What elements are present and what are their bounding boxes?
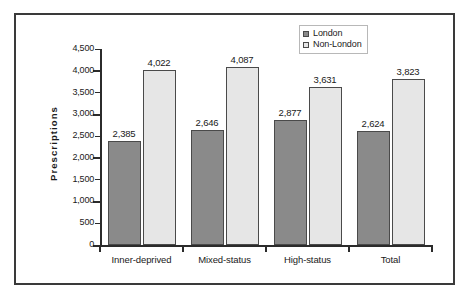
bar-value-label: 4,087 <box>231 54 254 65</box>
bar-group: 2,6243,823 <box>357 48 425 245</box>
y-axis-tick-label: 4,000 <box>52 66 94 75</box>
y-axis-tick-label: 2,500 <box>52 131 94 140</box>
y-axis-tick-label: 3,000 <box>52 109 94 118</box>
bar-london[interactable]: 2,646 <box>191 130 224 245</box>
y-axis-tick <box>93 70 102 72</box>
bar-value-label: 2,646 <box>196 117 219 128</box>
bar-london[interactable]: 2,624 <box>357 131 390 245</box>
y-axis-tick <box>95 179 102 180</box>
x-axis-tick <box>348 245 350 252</box>
legend-item[interactable]: Non-London <box>303 39 362 50</box>
bar-group: 2,3854,022 <box>108 48 176 245</box>
y-axis-tick <box>95 136 102 137</box>
y-axis-tick-label: 3,500 <box>52 88 94 97</box>
y-axis-tick-label: 1,000 <box>52 196 94 205</box>
chart-legend: LondonNon-London <box>299 25 368 54</box>
legend-item[interactable]: London <box>303 28 362 39</box>
bar-non-london[interactable]: 4,087 <box>226 67 259 245</box>
x-axis-tick <box>182 245 184 252</box>
legend-label: Non-London <box>313 40 362 49</box>
x-axis-tick <box>431 245 433 252</box>
y-axis-tick <box>93 201 102 203</box>
y-axis-tick <box>93 114 102 116</box>
bar-value-label: 4,022 <box>148 57 171 68</box>
x-axis-tick <box>265 245 267 252</box>
bar-london[interactable]: 2,877 <box>274 120 307 245</box>
bar-value-label: 2,877 <box>279 107 302 118</box>
legend-swatch-icon <box>303 31 309 37</box>
x-axis-category-label: Total <box>349 254 432 265</box>
y-axis-tick-label: 0 <box>52 240 94 249</box>
y-axis-tick <box>95 92 102 93</box>
bar-value-label: 3,631 <box>314 74 337 85</box>
bar-non-london[interactable]: 3,823 <box>392 79 425 246</box>
bar-value-label: 2,385 <box>113 128 136 139</box>
y-axis-tick <box>95 49 102 50</box>
x-axis-tick <box>99 245 101 252</box>
x-axis-category-label: Inner-deprived <box>100 254 183 265</box>
y-axis-tick-label: 1,500 <box>52 175 94 184</box>
bar-value-label: 2,624 <box>362 118 385 129</box>
bar-value-label: 3,823 <box>397 66 420 77</box>
y-axis-tick <box>93 157 102 159</box>
x-axis-category-label: Mixed-status <box>183 254 266 265</box>
legend-label: London <box>313 29 342 38</box>
y-axis-title: Prescriptions <box>48 84 59 204</box>
grouped-bar-chart: Prescriptions 05001,0001,5002,0002,5003,… <box>0 0 467 299</box>
bar-non-london[interactable]: 3,631 <box>309 87 342 245</box>
y-axis-tick-label: 500 <box>52 218 94 227</box>
x-axis-category-label: High-status <box>266 254 349 265</box>
bar-non-london[interactable]: 4,022 <box>143 70 176 245</box>
y-axis-tick-label: 2,000 <box>52 153 94 162</box>
bar-group: 2,6464,087 <box>191 48 259 245</box>
y-axis-line <box>100 49 102 246</box>
y-axis-tick <box>95 223 102 224</box>
y-axis-tick-label: 4,500 <box>52 44 94 53</box>
bar-london[interactable]: 2,385 <box>108 141 141 245</box>
legend-swatch-icon <box>303 42 309 48</box>
bar-group: 2,8773,631 <box>274 48 342 245</box>
